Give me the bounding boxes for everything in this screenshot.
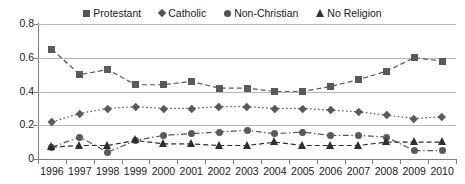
x-axis-tick-label: 2007 [347, 165, 370, 177]
x-axis-tick-mark [66, 160, 67, 164]
chart-container: Protestant Catholic Non-Christian No Rel… [0, 0, 465, 184]
x-axis-tick-label: 2001 [180, 165, 203, 177]
series-line-protestant [52, 49, 442, 91]
x-axis-tick-mark [94, 160, 95, 164]
x-axis-tick-label: 2009 [403, 165, 426, 177]
x-axis-tick-mark [38, 160, 39, 164]
x-axis-tick-mark [428, 160, 429, 164]
x-axis-tick-mark [149, 160, 150, 164]
series-lines [0, 0, 465, 184]
x-axis-tick-mark [317, 160, 318, 164]
y-axis-tick-mark [33, 58, 38, 59]
x-axis-tick-label: 2003 [235, 165, 258, 177]
x-axis-tick-mark [456, 160, 457, 164]
x-axis-tick-label: 2008 [375, 165, 398, 177]
x-axis-tick-label: 2006 [319, 165, 342, 177]
x-axis-tick-label: 2004 [263, 165, 286, 177]
series-line-non-christian [52, 130, 442, 152]
x-axis-tick-label: 2010 [430, 165, 453, 177]
y-axis-tick-mark [33, 92, 38, 93]
series-line-no-religion [52, 140, 442, 147]
x-axis-tick-mark [345, 160, 346, 164]
x-axis-tick-mark [372, 160, 373, 164]
x-axis-tick-mark [205, 160, 206, 164]
y-axis-tick-mark [33, 24, 38, 25]
x-axis-tick-label: 2000 [152, 165, 175, 177]
x-axis-tick-mark [289, 160, 290, 164]
x-axis-tick-mark [177, 160, 178, 164]
x-axis-tick-label: 1999 [124, 165, 147, 177]
y-axis-tick-mark [33, 125, 38, 126]
series-line-catholic [52, 107, 442, 122]
x-axis-tick-label: 2005 [291, 165, 314, 177]
x-axis-tick-label: 2002 [207, 165, 230, 177]
x-axis-tick-mark [261, 160, 262, 164]
x-axis-tick-mark [400, 160, 401, 164]
x-axis-tick-label: 1996 [40, 165, 63, 177]
x-axis-tick-mark [122, 160, 123, 164]
x-axis-tick-label: 1998 [96, 165, 119, 177]
x-axis-tick-label: 1997 [68, 165, 91, 177]
x-axis-tick-mark [233, 160, 234, 164]
